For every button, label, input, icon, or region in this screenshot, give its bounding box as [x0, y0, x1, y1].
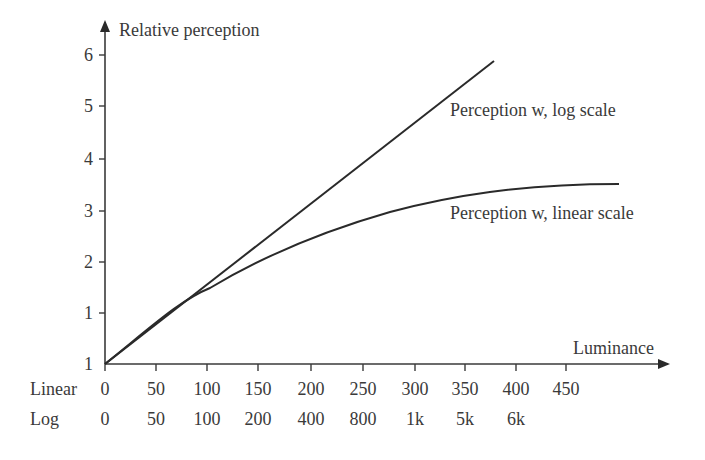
x-row-label-linear: Linear — [30, 380, 77, 398]
x-row-label-log: Log — [30, 410, 59, 428]
x-tick-log: 800 — [338, 410, 388, 428]
y-ticks — [99, 55, 105, 313]
x-tick-linear: 350 — [440, 380, 490, 398]
x-tick-linear: 100 — [182, 380, 232, 398]
x-tick-log: 200 — [233, 410, 283, 428]
x-tick-log: 6k — [491, 410, 541, 428]
y-tick-label: 5 — [73, 97, 93, 115]
y-tick-label: 3 — [73, 202, 93, 220]
x-tick-linear: 400 — [491, 380, 541, 398]
x-tick-log: 400 — [286, 410, 336, 428]
series-linear-label: Perception w, linear scale — [450, 204, 634, 222]
x-tick-linear: 250 — [338, 380, 388, 398]
y-tick-label: 2 — [73, 253, 93, 271]
series-log-label: Perception w, log scale — [450, 101, 616, 119]
x-axis-title: Luminance — [573, 339, 654, 357]
x-tick-log: 100 — [182, 410, 232, 428]
x-tick-log: 50 — [131, 410, 181, 428]
x-tick-log: 0 — [80, 410, 130, 428]
x-tick-linear: 0 — [80, 380, 130, 398]
y-tick-label: 1 — [73, 355, 93, 373]
x-tick-linear: 300 — [390, 380, 440, 398]
y-tick-label: 1 — [73, 304, 93, 322]
x-tick-linear: 50 — [131, 380, 181, 398]
x-tick-log: 5k — [440, 410, 490, 428]
y-tick-label: 6 — [73, 46, 93, 64]
x-tick-linear: 450 — [541, 380, 591, 398]
series-log-scale-line — [105, 61, 494, 364]
x-ticks — [105, 364, 566, 371]
x-tick-linear: 200 — [286, 380, 336, 398]
y-tick-label: 4 — [73, 150, 93, 168]
x-tick-linear: 150 — [233, 380, 283, 398]
x-tick-log: 1k — [390, 410, 440, 428]
y-axis-title: Relative perception — [119, 21, 259, 39]
